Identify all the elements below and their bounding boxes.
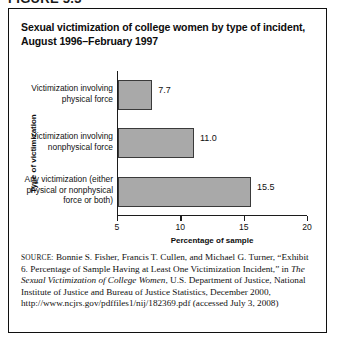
plot-area: 7.7 11.0 15.5 — [117, 71, 307, 216]
category-label-0-line-1: physical force — [62, 94, 113, 104]
bar-row-1: 11.0 — [118, 119, 307, 167]
category-label-column: Victimization involving physical force V… — [0, 71, 117, 216]
x-axis-tick-5 — [117, 216, 118, 221]
category-label-2: Any victimization (either physical or no… — [0, 174, 117, 206]
category-label-2-line-2: force or both) — [63, 195, 113, 205]
bar-value-any-victimization: 15.5 — [257, 182, 275, 192]
bar-nonphysical-force — [118, 128, 194, 158]
bar-row-2: 15.5 — [118, 168, 307, 216]
chart-title: Sexual victimization of college women by… — [21, 20, 313, 48]
source-note: source: Bonnie S. Fisher, Francis T. Cul… — [21, 252, 316, 310]
chart-plot-wrapper: Type of victimization Victimization invo… — [9, 71, 326, 251]
category-label-0-line-0: Victimization involving — [31, 83, 113, 93]
source-text-before: Bonnie S. Fisher, Francis T. Cullen, and… — [21, 252, 309, 274]
category-label-1: Victimization involving nonphysical forc… — [0, 131, 117, 152]
x-axis-tick-label-20: 20 — [302, 222, 312, 232]
chart-title-line-2: August 1996–February 1997 — [21, 34, 313, 48]
bar-any-victimization — [118, 177, 251, 207]
category-label-2-line-1: physical or nonphysical — [26, 185, 113, 195]
source-label: source: — [21, 253, 54, 262]
x-axis-title: Percentage of sample — [117, 236, 307, 245]
x-axis-tick-15 — [244, 216, 245, 221]
bar-value-physical-force: 7.7 — [158, 85, 171, 95]
category-label-2-line-0: Any victimization (either — [25, 174, 113, 184]
bar-physical-force — [118, 80, 152, 110]
x-axis-tick-label-10: 10 — [176, 222, 186, 232]
figure-number-label: FIGURE 5.3 — [8, 0, 82, 6]
x-axis-tick-10 — [180, 216, 181, 221]
bar-value-nonphysical-force: 11.0 — [200, 133, 217, 143]
category-label-1-line-1: nonphysical force — [48, 142, 113, 152]
x-axis-tick-20 — [307, 216, 308, 221]
bar-row-0: 7.7 — [118, 71, 307, 119]
x-axis-tick-label-15: 15 — [239, 222, 249, 232]
category-label-0: Victimization involving physical force — [0, 83, 117, 104]
chart-title-line-1: Sexual victimization of college women by… — [21, 20, 313, 34]
figure-container: Sexual victimization of college women by… — [8, 8, 327, 333]
category-label-1-line-0: Victimization involving — [31, 131, 113, 141]
x-axis-tick-label-5: 5 — [115, 222, 120, 232]
